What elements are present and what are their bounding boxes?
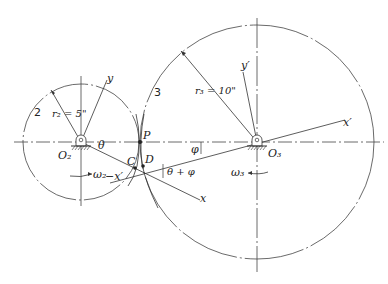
y-prime-line xyxy=(243,72,257,142)
neg-x-prime-label: −x′ xyxy=(105,170,123,183)
point-P xyxy=(138,140,142,144)
gear3-center-label: O₃ xyxy=(268,147,281,160)
y-axis-label: y xyxy=(106,72,114,85)
point-C-label: C xyxy=(127,155,136,168)
gear2-number-label: 2 xyxy=(34,106,41,119)
x-prime-label: x′ xyxy=(343,116,352,129)
gear2-radius-label: r₂ = 5" xyxy=(52,108,87,119)
gear2-center-label: O₂ xyxy=(58,149,71,162)
x-axis-label: x xyxy=(200,192,207,205)
point-P-label: P xyxy=(142,129,151,142)
gear3-omega-label: ω₃ xyxy=(231,166,244,179)
point-D-label: D xyxy=(144,153,154,166)
theta-label: θ xyxy=(98,139,105,152)
theta-plus-phi-label: θ + φ xyxy=(167,166,195,177)
omega3-arrowhead-icon xyxy=(248,171,252,175)
phi-label: φ xyxy=(191,143,199,156)
omega2-arrowhead-icon xyxy=(88,172,92,176)
gear3-radius-arrow-icon xyxy=(181,51,186,56)
gear3-number-label: 3 xyxy=(154,86,161,99)
y-prime-label: y′ xyxy=(240,59,250,72)
gear3-radius-label: r₃ = 10" xyxy=(195,85,236,96)
gear-diagram: 2 r₂ = 5" O₂ ω₂ 3 r₃ = 10" O₃ ω₃ P C D y… xyxy=(0,0,388,284)
diagram-svg: 2 r₂ = 5" O₂ ω₂ 3 r₃ = 10" O₃ ω₃ P C D y… xyxy=(0,0,388,284)
